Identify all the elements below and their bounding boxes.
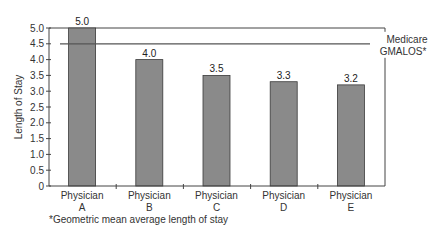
y-tick-label: 3.0 [30, 86, 44, 97]
bar [270, 82, 297, 186]
y-tick-label: 2.5 [30, 102, 44, 113]
gmalos-label-line2: GMALOS* [380, 46, 427, 57]
x-category-label-line1: Physician [329, 190, 372, 201]
y-tick-label: 2.0 [30, 117, 44, 128]
x-category-label-line2: D [280, 202, 287, 213]
bar [203, 75, 230, 186]
x-category-label-line1: Physician [262, 190, 305, 201]
y-axis-label: Length of Stay [13, 75, 24, 140]
y-tick-label: 1.0 [30, 149, 44, 160]
bar [136, 60, 163, 186]
y-axis: 00.51.01.52.02.53.03.54.04.55.0 [30, 23, 51, 192]
bar-value-label: 3.2 [344, 73, 358, 84]
y-tick-label: 5.0 [30, 23, 44, 34]
bar [69, 28, 96, 186]
bar-value-label: 3.5 [210, 63, 224, 74]
y-tick-label: 4.0 [30, 54, 44, 65]
y-tick-label: 4.5 [30, 38, 44, 49]
y-tick-label: 3.5 [30, 70, 44, 81]
y-tick-label: 0 [38, 181, 44, 192]
reference-line: MedicareGMALOS* [60, 32, 432, 58]
x-category-label-line2: E [348, 202, 355, 213]
bar [337, 85, 364, 186]
bar-chart: 00.51.01.52.02.53.03.54.04.55.0 5.04.03.… [0, 0, 432, 239]
x-category-label-line1: Physician [61, 190, 104, 201]
bar-value-label: 5.0 [75, 16, 89, 27]
bar-value-label: 4.0 [142, 48, 156, 59]
x-category-label-line1: Physician [195, 190, 238, 201]
bar-value-label: 3.3 [277, 70, 291, 81]
x-category-label-line2: B [146, 202, 153, 213]
gmalos-label-line1: Medicare [386, 34, 428, 45]
footnote: *Geometric mean average length of stay [49, 214, 228, 225]
bars: 5.04.03.53.33.2 [69, 16, 365, 186]
y-tick-label: 1.5 [30, 133, 44, 144]
x-category-label-line2: A [79, 202, 86, 213]
x-category-label-line1: Physician [128, 190, 171, 201]
x-category-label-line2: C [213, 202, 220, 213]
x-axis: PhysicianAPhysicianBPhysicianCPhysicianD… [49, 184, 385, 213]
y-tick-label: 0.5 [30, 165, 44, 176]
